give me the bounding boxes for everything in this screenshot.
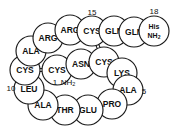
- residue-label: ARG: [39, 33, 58, 43]
- residue-label: CYS: [83, 26, 101, 36]
- residue-10-num: 10: [7, 84, 16, 93]
- residue-18-num: 18: [150, 7, 159, 16]
- residue-5-num: 5: [142, 87, 147, 96]
- residue-circle: [139, 16, 169, 46]
- residue-label: LEU: [21, 84, 38, 94]
- residue-his: HisNH2: [139, 16, 169, 46]
- residue-1-num: 1: [53, 78, 58, 87]
- residue-label: His: [149, 23, 160, 30]
- peptide-diagram: CYSASNCYSLYSALAPROGLUTHRALALEUCYSALAARGA…: [0, 0, 171, 127]
- residue-label: ASN: [72, 59, 90, 69]
- residue-label: PRO: [103, 99, 122, 109]
- residue-label: THR: [56, 105, 73, 115]
- n-terminus: NH2: [61, 78, 76, 88]
- residue-label: CYS: [48, 65, 66, 75]
- residue-layer: CYSASNCYSLYSALAPROGLUTHRALALEUCYSALAARGA…: [10, 15, 169, 125]
- residue-15-num: 15: [88, 8, 97, 17]
- residue-label: GLU: [79, 105, 97, 115]
- residue-terminal-label: NH2: [148, 32, 161, 40]
- peptide-diagram-canvas: CYSASNCYSLYSALAPROGLUTHRALALEUCYSALAARGA…: [0, 0, 171, 127]
